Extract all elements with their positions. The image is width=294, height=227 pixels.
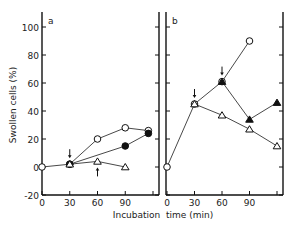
filled-triangle-marker	[273, 99, 281, 105]
x-tick-label: 0	[39, 198, 45, 208]
figure: Swollen cells (%) Incubation time (min) …	[0, 0, 294, 227]
panel-label: b	[172, 16, 178, 26]
x-tick-label: 90	[244, 198, 256, 208]
x-tick-label: 30	[64, 198, 76, 208]
chart-canvas: Swollen cells (%) Incubation time (min) …	[0, 0, 294, 227]
y-tick-label: -20	[24, 191, 39, 201]
open-triangle-marker	[218, 112, 226, 118]
open-circle-marker	[246, 38, 253, 45]
x-tick-label: 60	[92, 198, 104, 208]
filled-triangle-marker	[246, 116, 254, 122]
open-triangle-marker	[94, 158, 102, 164]
panel-b: 0306090b	[164, 12, 283, 208]
x-tick-label: 30	[189, 198, 201, 208]
series-line-filled-triangle	[222, 82, 277, 120]
y-tick-label: 60	[28, 79, 40, 89]
panel-a: -200204060801000306090a	[22, 12, 159, 208]
series-line-filled-circle	[70, 133, 149, 164]
x-axis-label: Incubation time (min)	[113, 210, 213, 220]
open-circle-marker	[94, 136, 101, 143]
open-circle-marker	[164, 164, 171, 171]
panel-label: a	[48, 16, 54, 26]
y-axis-label: Swollen cells (%)	[8, 67, 18, 143]
panels: -200204060801000306090a0306090b	[22, 12, 283, 208]
y-tick-label: 100	[22, 23, 39, 33]
y-tick-label: 40	[28, 107, 40, 117]
open-triangle-marker	[273, 143, 281, 149]
filled-circle-marker	[122, 143, 129, 150]
open-triangle-marker	[246, 126, 254, 132]
x-tick-label: 60	[216, 198, 228, 208]
y-tick-label: 80	[28, 51, 40, 61]
filled-circle-marker	[145, 130, 152, 137]
x-tick-label: 0	[164, 198, 170, 208]
open-circle-marker	[39, 164, 46, 171]
open-circle-marker	[122, 125, 129, 132]
y-tick-label: 20	[28, 135, 40, 145]
x-tick-label: 90	[120, 198, 132, 208]
series-line-open-circle	[167, 41, 250, 167]
